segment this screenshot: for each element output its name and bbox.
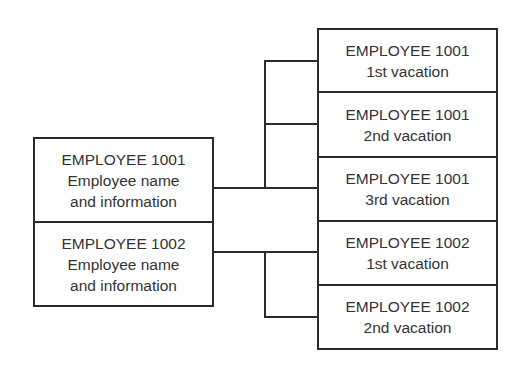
parent-1001-line-1: EMPLOYEE 1001 [61,149,185,170]
connector-1001-branch-2nd [264,123,317,125]
child-line-1: EMPLOYEE 1001 [345,104,469,125]
child-line-1: EMPLOYEE 1001 [345,168,469,189]
parent-1002-line-1: EMPLOYEE 1002 [61,233,185,254]
parent-1002-line-2: Employee name [67,254,179,275]
child-line-1: EMPLOYEE 1002 [345,296,469,317]
child-line-1: EMPLOYEE 1001 [345,40,469,61]
child-line-2: 2nd vacation [364,317,452,338]
parent-box-employee-1002: EMPLOYEE 1002 Employee name and informat… [33,221,214,307]
connector-1001-branch-1st [264,60,317,62]
parent-1001-line-2: Employee name [67,170,179,191]
child-line-2: 3rd vacation [365,189,449,210]
child-box-1001-3rd-vacation: EMPLOYEE 1001 3rd vacation [317,156,498,222]
connector-1002-branch-2nd [264,316,317,318]
parent-1001-line-3: and information [70,191,177,212]
child-line-1: EMPLOYEE 1002 [345,232,469,253]
child-box-1001-2nd-vacation: EMPLOYEE 1001 2nd vacation [317,91,498,158]
child-box-1001-1st-vacation: EMPLOYEE 1001 1st vacation [317,28,498,93]
child-line-2: 1st vacation [366,61,449,82]
connector-1002-spine [264,251,266,318]
child-box-1002-1st-vacation: EMPLOYEE 1002 1st vacation [317,220,498,286]
child-box-1002-2nd-vacation: EMPLOYEE 1002 2nd vacation [317,284,498,350]
child-line-2: 2nd vacation [364,125,452,146]
child-line-2: 1st vacation [366,253,449,274]
parent-1002-line-3: and information [70,275,177,296]
parent-box-employee-1001: EMPLOYEE 1001 Employee name and informat… [33,137,214,223]
